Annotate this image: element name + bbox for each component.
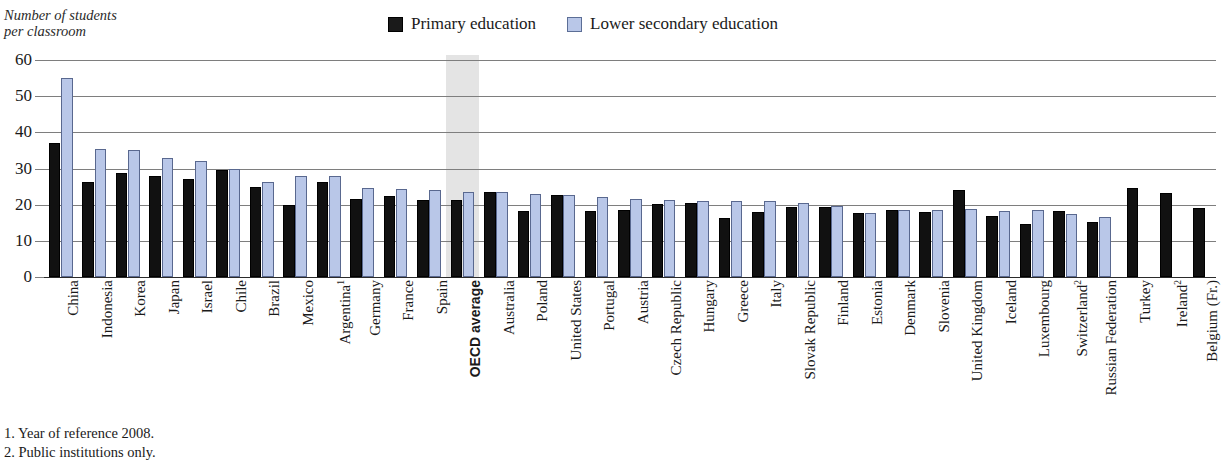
bar-primary [216,170,228,277]
bar-lower-secondary [1066,214,1078,277]
legend-item-primary: Primary education [388,14,536,34]
category-label: Spain [435,280,450,314]
y-axis-title: Number of students per classroom [4,8,117,39]
y-axis-tick-mark [35,205,44,206]
bar-primary [484,192,496,277]
category-label: Russian Federation [1104,280,1119,395]
bar-primary [283,205,295,277]
bar-lower-secondary [597,197,609,277]
category-label: Mexico [301,280,316,326]
bar-primary [350,199,362,277]
category-label: Turkey [1138,280,1153,323]
y-axis-tick-label: 50 [0,86,32,106]
footnote-1: 1. Year of reference 2008. [4,424,156,443]
bar-lower-secondary [831,206,843,277]
bar-primary [451,200,463,277]
bar-primary [149,176,161,277]
y-axis-tick-label: 40 [0,122,32,142]
bar-primary [786,207,798,277]
category-label: Italy [769,280,784,308]
category-label: Czech Republic [669,280,684,375]
y-axis-tick-mark [35,96,44,97]
bar-primary [1160,193,1172,277]
y-axis-tick-mark [35,60,44,61]
bar-primary [1053,211,1065,277]
bar-lower-secondary [329,176,341,277]
category-label: Germany [368,280,383,336]
bar-primary [953,190,965,277]
chart-container: Number of students per classroom Primary… [0,0,1224,463]
bar-lower-secondary [764,201,776,277]
bar-primary [518,211,530,277]
bar-lower-secondary [563,195,575,277]
bar-primary [986,216,998,277]
bar-lower-secondary [95,149,107,277]
bar-lower-secondary [865,213,877,277]
bar-primary [886,210,898,277]
bar-primary [82,182,94,277]
bar-primary [719,218,731,277]
bar-lower-secondary [262,182,274,277]
y-axis-tick-mark [35,132,44,133]
bar-lower-secondary [898,210,910,277]
bar-primary [819,207,831,277]
bar-lower-secondary [496,192,508,277]
bar-primary [317,182,329,277]
bar-primary [853,213,865,277]
bar-primary [685,203,697,278]
category-label: Portugal [602,280,617,331]
bar-lower-secondary [429,190,441,277]
bar-primary [1127,188,1139,277]
primary-swatch-icon [388,17,403,32]
category-label: Luxembourg [1037,280,1052,357]
category-label: China [66,280,81,316]
category-label: Chile [234,280,249,313]
footnotes: 1. Year of reference 2008. 2. Public ins… [4,424,156,462]
bar-lower-secondary [530,194,542,277]
category-label: Denmark [903,280,918,336]
category-label: Estonia [870,280,885,325]
bar-lower-secondary [463,192,475,277]
y-axis-tick-mark [35,241,44,242]
category-label: Austria [636,280,651,324]
y-axis-tick-label: 0 [0,267,32,287]
y-axis-tick-label: 20 [0,195,32,215]
chart-legend: Primary education Lower secondary educat… [388,14,778,34]
bar-primary [919,212,931,277]
bar-primary [250,187,262,277]
category-label: Slovenia [937,280,952,333]
lower-secondary-swatch-icon [567,17,582,32]
bar-primary [384,196,396,277]
bar-lower-secondary [362,188,374,277]
category-label: Switzerland2 [1071,280,1090,356]
bar-primary [752,212,764,277]
bar-primary [618,210,630,277]
y-axis-tick-label: 10 [0,231,32,251]
bar-lower-secondary [965,209,977,277]
bar-lower-secondary [731,201,743,277]
category-label: Indonesia [100,280,115,338]
bar-lower-secondary [229,169,241,277]
category-label: Finland [836,280,851,326]
bar-primary [183,179,195,277]
bar-lower-secondary [697,201,709,277]
bar-lower-secondary [162,158,174,277]
category-label: Belgium (Fr.) [1205,280,1220,362]
bar-lower-secondary [798,203,810,277]
bar-lower-secondary [1032,210,1044,277]
footnote-2: 2. Public institutions only. [4,443,156,462]
legend-label-lower-secondary: Lower secondary education [590,14,778,34]
category-labels: ChinaIndonesiaKoreaJapanIsraelChileBrazi… [44,280,1216,415]
category-label: OECD average [468,280,483,377]
bar-primary [417,200,429,277]
category-label: Poland [535,280,550,322]
y-axis-tick-mark [35,169,44,170]
category-label: United States [569,280,584,360]
bar-lower-secondary [1099,217,1111,277]
y-axis-tick-mark [35,277,44,278]
category-label: Iceland [1004,280,1019,324]
bar-lower-secondary [664,200,676,277]
bar-primary [551,195,563,277]
y-axis-tick-label: 60 [0,50,32,70]
bar-lower-secondary [396,189,408,277]
